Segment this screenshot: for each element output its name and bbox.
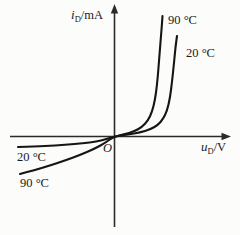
curve-20c: [18, 36, 177, 147]
origin-label: O: [103, 141, 112, 155]
x-axis-label: uD/V: [201, 139, 226, 156]
label-90c-reverse: 90 °C: [20, 176, 49, 190]
diode-iv-figure: iD/mA uD/V O 90 °C 20 °C 20 °C 90 °C: [0, 0, 240, 235]
diode-iv-chart: iD/mA uD/V O 90 °C 20 °C 20 °C 90 °C: [0, 0, 240, 235]
label-90c-forward: 90 °C: [168, 13, 197, 27]
label-20c-forward: 20 °C: [186, 46, 215, 60]
y-axis-label: iD/mA: [71, 7, 103, 24]
label-20c-reverse: 20 °C: [17, 150, 46, 164]
y-axis-arrow-icon: [111, 4, 118, 14]
